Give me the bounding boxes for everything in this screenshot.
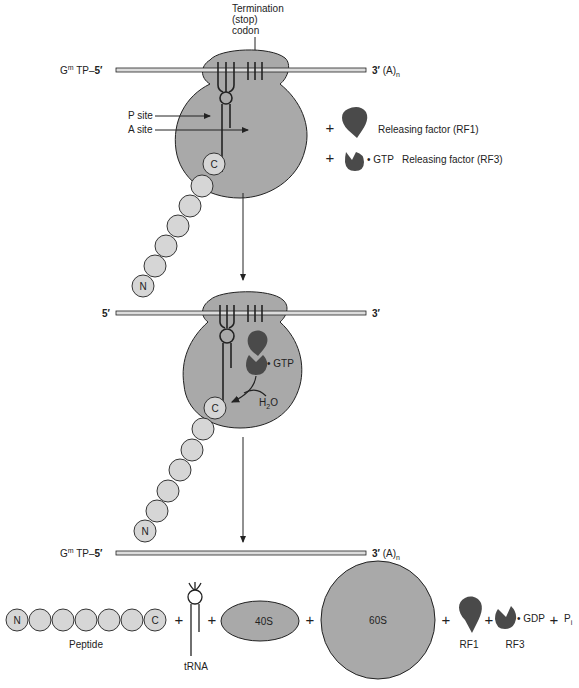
- peptide-label: Peptide: [69, 639, 103, 650]
- gtp-label-2: • GTP: [267, 358, 294, 369]
- a-site-label: A site: [128, 124, 153, 135]
- rf3-label: Releasing factor (RF3): [402, 154, 503, 165]
- mrna-strand-3: [116, 551, 366, 555]
- peptide-chain-1: [132, 153, 225, 297]
- mrna-5prime-label-2: 5′: [102, 308, 111, 319]
- p-site-label: P site: [128, 110, 153, 121]
- small-subunit-label: 40S: [255, 616, 273, 627]
- rf3-gtp-label: • GTP: [367, 154, 394, 165]
- free-trna: [188, 582, 202, 656]
- plus-4: +: [208, 611, 217, 628]
- plus-5: +: [306, 611, 315, 628]
- plus-6: +: [442, 611, 451, 628]
- peptide-n-label: N: [13, 615, 20, 626]
- translation-termination-diagram: Termination (stop) codon Gm TP–5′ 3′ (A)…: [0, 0, 579, 688]
- mrna-strand-2: [116, 311, 366, 315]
- phosphate-label: Pi: [564, 613, 573, 626]
- termination-label-line2: (stop): [232, 14, 258, 25]
- free-peptide: [6, 609, 166, 631]
- mrna-5prime-label-1: Gm TP–5′: [60, 64, 103, 76]
- panel-2-hydrolysis: 5′ 3′ • GTP H2O: [102, 292, 381, 542]
- termination-label-line3: codon: [232, 25, 259, 36]
- mrna-5prime-label-3: Gm TP–5′: [60, 547, 103, 559]
- plus-8: +: [550, 611, 559, 628]
- plus-3: +: [175, 611, 184, 628]
- gdp-label: • GDP: [517, 613, 545, 624]
- termination-label-line1: Termination: [232, 3, 284, 14]
- mrna-strand-1: [116, 68, 366, 72]
- rf3-icon: [345, 152, 364, 171]
- panel-1-termination-start: Termination (stop) codon Gm TP–5′ 3′ (A)…: [60, 3, 503, 297]
- c-terminus-label-2: C: [211, 403, 218, 414]
- n-terminus-label-1: N: [139, 281, 146, 292]
- rf1-label: Releasing factor (RF1): [378, 124, 479, 135]
- plus-1: +: [326, 119, 335, 136]
- mrna-3prime-label-2: 3′: [372, 308, 381, 319]
- peptide-chain-2: [134, 397, 226, 542]
- peptide-c-label: C: [151, 615, 158, 626]
- plus-7: +: [485, 611, 494, 628]
- mrna-3prime-label-3: 3′ (A)n: [372, 548, 400, 561]
- large-subunit-label: 60S: [369, 615, 387, 626]
- c-terminus-label-1: C: [210, 159, 217, 170]
- plus-2: +: [326, 149, 335, 166]
- trna-label: tRNA: [184, 661, 208, 672]
- free-rf1-label: RF1: [460, 639, 479, 650]
- free-rf1-icon: [459, 597, 482, 633]
- n-terminus-label-2: N: [141, 526, 148, 537]
- free-rf3-icon: [495, 606, 516, 629]
- mrna-3prime-label-1: 3′ (A)n: [372, 65, 400, 78]
- rf1-icon: [342, 107, 367, 138]
- free-rf3-label: RF3: [506, 639, 525, 650]
- panel-3-dissociation: Gm TP–5′ 3′ (A)n N C Peptide + tRNA: [6, 547, 573, 679]
